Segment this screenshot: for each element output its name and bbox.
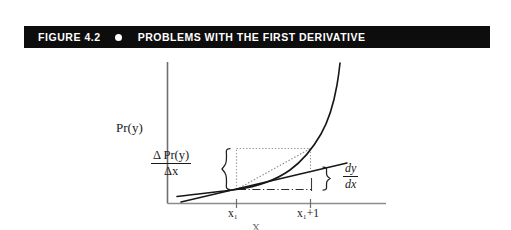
secant-slope-numerator: Δ Pr(y) [151, 149, 191, 163]
bullet-dot-icon [115, 34, 122, 41]
tangent-slope-numerator: dy [343, 162, 358, 176]
secant-slope-denominator: Δx [151, 164, 191, 178]
delta-brace [222, 149, 230, 190]
tangent-slope-denominator: dx [343, 177, 358, 191]
x-tick-label-x1-plus-1: x₁+1 [297, 207, 319, 219]
tangent-slope-label: dy dx [343, 162, 358, 190]
figure-title-label: PROBLEMS WITH THE FIRST DERIVATIVE [138, 31, 366, 43]
figure-caption-bar: FIGURE 4.2 PROBLEMS WITH THE FIRST DERIV… [24, 26, 490, 48]
secant-line [237, 149, 311, 190]
derivative-diagram-svg [0, 52, 511, 230]
figure-number-label: FIGURE 4.2 [38, 31, 101, 43]
dydx-brace [323, 167, 330, 190]
figure-plot-area: Pr(y) Δ Pr(y) Δx dy dx x₁ x₁+1 X [0, 52, 511, 230]
delta-rectangle-dotted [237, 149, 311, 190]
y-axis-label: Pr(y) [116, 121, 143, 134]
secant-slope-label: Δ Pr(y) Δx [151, 149, 191, 178]
probability-curve [177, 63, 340, 197]
x-axis-title: X [252, 221, 260, 230]
x-tick-label-x1: x₁ [228, 207, 238, 219]
